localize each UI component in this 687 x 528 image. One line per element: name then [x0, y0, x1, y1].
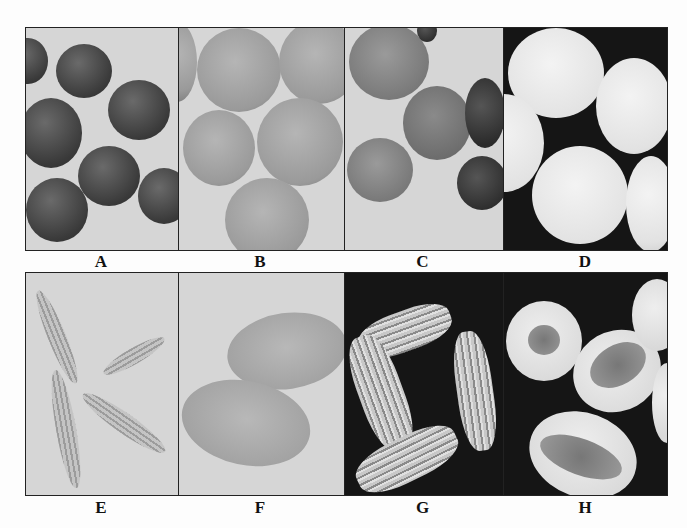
figure-row-top [25, 27, 668, 251]
panel-label-a: A [25, 252, 177, 272]
panel-label-d: D [502, 252, 668, 272]
labels-top-row: A B C D [25, 252, 668, 272]
panel-label-e: E [25, 498, 177, 518]
panel-a-image [26, 28, 178, 250]
panel-f-image [178, 273, 344, 495]
panel-label-g: G [343, 498, 502, 518]
seed-figure: A B C D [0, 0, 687, 528]
panel-g-image [344, 273, 503, 495]
figure-row-bottom [25, 272, 668, 496]
labels-bottom-row: E F G H [25, 498, 668, 518]
panel-d-image [503, 28, 667, 250]
panel-b-image [178, 28, 344, 250]
panel-label-h: H [502, 498, 668, 518]
panel-label-c: C [343, 252, 502, 272]
panel-c-image [344, 28, 503, 250]
panel-e-image [26, 273, 178, 495]
panel-label-f: F [177, 498, 343, 518]
panel-h-image [503, 273, 667, 495]
panel-label-b: B [177, 252, 343, 272]
